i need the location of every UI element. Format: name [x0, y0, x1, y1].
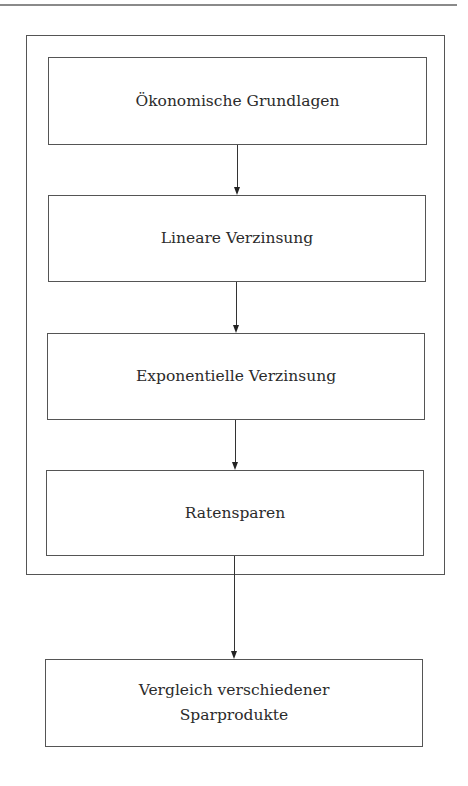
node-oekonomische-grundlagen: Ökonomische Grundlagen	[48, 57, 427, 145]
arrow-line	[237, 145, 238, 188]
arrow-line	[235, 420, 236, 463]
arrow-head-icon	[231, 651, 237, 659]
node-label-line-1: Vergleich verschiedener	[139, 678, 330, 703]
node-label: Exponentielle Verzinsung	[136, 364, 336, 389]
node-exponentielle-verzinsung: Exponentielle Verzinsung	[47, 333, 425, 420]
node-label: Lineare Verzinsung	[161, 226, 313, 251]
node-lineare-verzinsung: Lineare Verzinsung	[48, 195, 426, 282]
arrow-line	[236, 282, 237, 326]
node-label-line-2: Sparprodukte	[180, 703, 289, 728]
arrow-head-icon	[234, 187, 240, 195]
arrow-line	[234, 556, 235, 652]
node-label: Ökonomische Grundlagen	[135, 89, 339, 114]
node-ratensparen: Ratensparen	[46, 470, 424, 556]
node-vergleich-sparprodukte: Vergleich verschiedener Sparprodukte	[45, 659, 423, 747]
top-rule-divider	[0, 4, 457, 6]
node-label: Ratensparen	[185, 501, 285, 526]
arrow-head-icon	[232, 462, 238, 470]
arrow-head-icon	[233, 325, 239, 333]
